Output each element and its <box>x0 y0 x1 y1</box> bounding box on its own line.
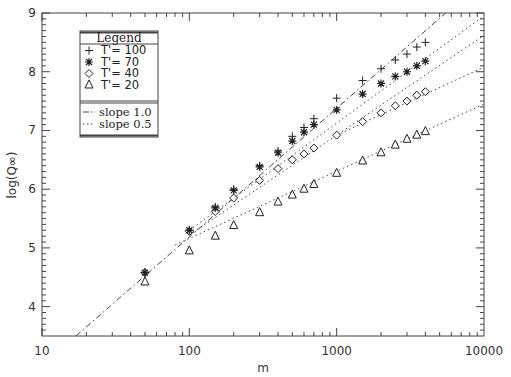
y-axis-label: log(Q∞) <box>5 151 19 198</box>
x-tick-label: 100 <box>178 344 201 358</box>
legend-label: slope 0.5 <box>99 117 152 131</box>
x-tick-label: 1000 <box>321 344 352 358</box>
y-tick-label: 8 <box>28 65 36 79</box>
chart-canvas: 10100100010000456789 m log(Q∞) Legend T'… <box>0 0 511 377</box>
y-tick-label: 7 <box>28 123 36 137</box>
x-axis-label: m <box>257 361 269 375</box>
y-tick-label: 4 <box>28 300 36 314</box>
series-asterisk <box>141 57 429 276</box>
legend-label: T'= 20 <box>100 78 139 92</box>
legend: Legend T'= 100T'= 70T'= 40T'= 20 slope 1… <box>80 31 158 137</box>
y-tick-label: 6 <box>28 182 36 196</box>
y-tick-label: 5 <box>28 241 36 255</box>
x-tick-label: 10000 <box>465 344 503 358</box>
y-tick-label: 9 <box>28 6 36 20</box>
series-diamond <box>141 88 429 277</box>
asterisk-icon <box>85 58 93 66</box>
slope-half-line <box>175 104 484 245</box>
x-tick-label: 10 <box>34 344 49 358</box>
series-triangle <box>141 127 429 285</box>
